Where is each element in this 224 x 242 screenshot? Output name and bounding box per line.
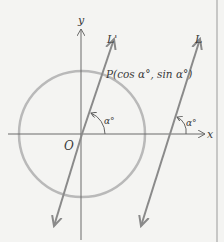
line-l-lower [141,134,170,226]
line-l-label: L [194,33,202,46]
angle-label-l: α° [186,118,197,128]
origin-label: O [64,139,74,153]
line-l-prime-label: L' [106,33,117,46]
angle-arc-l [177,117,186,134]
x-axis-label: x [207,128,214,141]
y-axis-label: y [77,14,85,27]
angle-label-origin: α° [104,116,115,126]
unit-circle-diagram: y x O L' L P(cos α°, sin α°) α° α° [0,0,224,242]
point-p-label: P(cos α°, sin α°) [105,68,192,80]
angle-arc-origin [91,113,105,134]
